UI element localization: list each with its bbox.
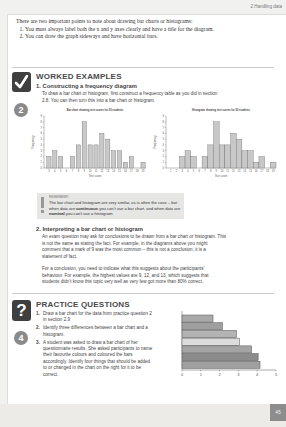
svg-text:1: 1 — [163, 160, 165, 164]
svg-text:2: 2 — [176, 169, 178, 173]
svg-text:3: 3 — [163, 149, 165, 153]
svg-text:1: 1 — [200, 372, 203, 377]
svg-text:3: 3 — [237, 372, 240, 377]
horizontal-bar-chart: 012345 — [176, 308, 280, 388]
svg-text:9: 9 — [41, 114, 43, 118]
svg-text:0: 0 — [41, 166, 43, 170]
example2-para1: An exam question may ask for conclusions… — [42, 234, 226, 260]
intro-block: There are two important points to note a… — [16, 18, 266, 41]
svg-text:2: 2 — [218, 372, 221, 377]
svg-text:Test score: Test score — [215, 174, 228, 178]
svg-text:8: 8 — [163, 120, 165, 124]
step-number-icon: 4 — [14, 331, 28, 345]
svg-text:Histogram showing test scores: Histogram showing test scores for 50 stu… — [192, 108, 250, 112]
intro-point: You can draw the graph sideways and have… — [25, 33, 266, 41]
example2-title: 2. Interpreting a bar chart or histogram — [36, 226, 143, 232]
svg-text:12: 12 — [100, 169, 103, 173]
question-text: Identify three differences between a bar… — [43, 325, 148, 336]
svg-text:18: 18 — [266, 169, 269, 173]
svg-text:17: 17 — [260, 169, 263, 173]
svg-text:6: 6 — [66, 169, 68, 173]
svg-text:19: 19 — [142, 169, 145, 173]
question-mark-icon: ? — [12, 300, 31, 321]
remember-box: REMEMBER! The bar chart and histogram ar… — [37, 193, 184, 219]
svg-text:11: 11 — [226, 169, 229, 173]
svg-text:8: 8 — [41, 120, 43, 124]
svg-text:2: 2 — [41, 154, 43, 158]
page-number: 45 — [270, 404, 286, 421]
svg-text:Frequency: Frequency — [153, 135, 157, 149]
practice-question-list: 1.Draw a bar chart for the data from pra… — [36, 311, 154, 380]
example1-text: To draw a bar chart or histogram, first … — [42, 91, 222, 104]
svg-text:1: 1 — [41, 160, 43, 164]
practice-question: 3.A student was asked to draw a bar char… — [36, 340, 154, 378]
practice-question: 1.Draw a bar chart for the data from pra… — [36, 311, 154, 324]
intro-point: You must always label both the x and y a… — [25, 26, 266, 34]
svg-text:17: 17 — [130, 169, 133, 173]
svg-text:7: 7 — [72, 169, 74, 173]
svg-text:Test score: Test score — [89, 174, 102, 178]
svg-text:9: 9 — [84, 169, 86, 173]
svg-text:10: 10 — [89, 169, 92, 173]
question-number: 3. — [36, 340, 40, 346]
svg-text:8: 8 — [210, 169, 212, 173]
svg-text:0: 0 — [163, 166, 165, 170]
bar-chart: Bar chart showing test scores for 50 stu… — [30, 106, 150, 186]
svg-text:8: 8 — [78, 169, 80, 173]
remember-text-part: you can't use a histogram. — [65, 211, 114, 216]
svg-text:9: 9 — [163, 114, 165, 118]
worked-examples-title: WORKED EXAMPLES — [36, 72, 122, 81]
section-divider — [12, 293, 274, 294]
example2-para2: For a conclusion, you need to indicate w… — [42, 266, 226, 286]
intro-points: You must always label both the x and y a… — [16, 26, 266, 41]
section-divider — [12, 67, 274, 68]
svg-text:13: 13 — [106, 169, 109, 173]
svg-text:0: 0 — [181, 372, 184, 377]
svg-text:Bar chart showing test scores: Bar chart showing test scores for 50 stu… — [67, 108, 124, 112]
svg-text:13: 13 — [238, 169, 241, 173]
svg-text:5: 5 — [163, 137, 165, 141]
page-header: 2 Handling data — [0, 0, 286, 14]
svg-text:4: 4 — [41, 143, 43, 147]
chapter-label: 2 Handling data — [250, 4, 282, 9]
svg-text:15: 15 — [249, 169, 252, 173]
svg-text:16: 16 — [124, 169, 127, 173]
footer-bar — [0, 404, 286, 427]
practice-question: 2.Identify three differences between a b… — [36, 325, 154, 338]
svg-text:7: 7 — [163, 126, 165, 130]
remember-label: REMEMBER! — [49, 195, 69, 199]
svg-text:3: 3 — [41, 149, 43, 153]
svg-text:6: 6 — [199, 169, 201, 173]
question-text: A student was asked to draw a bar chart … — [43, 340, 152, 377]
svg-text:Frequency: Frequency — [31, 135, 35, 149]
svg-text:15: 15 — [118, 169, 121, 173]
svg-text:5: 5 — [193, 169, 195, 173]
svg-text:6: 6 — [163, 131, 165, 135]
svg-text:4: 4 — [256, 372, 259, 377]
svg-text:4: 4 — [187, 169, 189, 173]
svg-text:4: 4 — [163, 143, 165, 147]
svg-text:19: 19 — [272, 169, 275, 173]
remember-bold-continuous: continuous — [76, 206, 98, 211]
remember-text-part: you can't use a bar chart, and when data… — [98, 206, 180, 211]
checkmark-icon — [12, 72, 31, 92]
svg-text:7: 7 — [41, 126, 43, 130]
svg-text:14: 14 — [243, 169, 246, 173]
svg-text:3: 3 — [181, 169, 183, 173]
svg-text:10: 10 — [221, 169, 224, 173]
question-number: 2. — [36, 325, 40, 331]
svg-text:16: 16 — [255, 169, 258, 173]
svg-text:18: 18 — [136, 169, 139, 173]
svg-text:5: 5 — [41, 137, 43, 141]
question-text: Draw a bar chart for the data from pract… — [43, 311, 152, 322]
exclamation-icon — [40, 197, 45, 213]
remember-bold-nominal: nominal — [49, 211, 65, 216]
step-number-icon: 2 — [14, 103, 28, 117]
histogram-chart: Histogram showing test scores for 50 stu… — [152, 106, 280, 186]
svg-text:3: 3 — [48, 169, 50, 173]
svg-text:5: 5 — [60, 169, 62, 173]
svg-text:12: 12 — [232, 169, 235, 173]
example1-title: 1. Constructing a frequency diagram — [36, 83, 137, 89]
svg-text:14: 14 — [112, 169, 115, 173]
practice-questions-title: PRACTICE QUESTIONS — [36, 300, 130, 309]
